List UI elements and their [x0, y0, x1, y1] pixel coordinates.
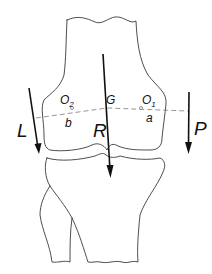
point-o2-label: O2: [60, 93, 74, 109]
force-p-line: [189, 92, 190, 145]
point-g-label: G: [106, 93, 115, 107]
force-r-arrowhead: [107, 165, 114, 178]
segment-a-label: a: [146, 111, 153, 125]
force-p-label: P: [194, 118, 207, 139]
force-p-arrowhead: [185, 142, 192, 154]
force-l-arrowhead: [35, 143, 42, 154]
force-r-line: [103, 54, 110, 170]
fibula-outline: [40, 186, 72, 262]
segment-b-label: b: [65, 116, 72, 130]
point-o1-label: O1: [142, 93, 156, 109]
force-r-label: R: [93, 120, 107, 141]
tibia-outline: [45, 153, 164, 262]
force-l-label: L: [17, 120, 28, 141]
knee-diagram: L R P O2 G O1 b a: [0, 0, 212, 274]
